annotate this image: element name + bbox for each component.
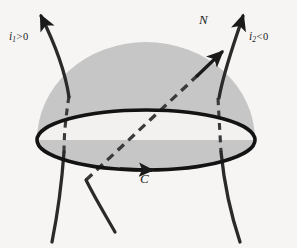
wire-i1-lower: [52, 152, 64, 242]
label-current-i2: i2<0: [249, 31, 268, 44]
label-current-i1: i1>0: [9, 31, 28, 44]
label-i1-value: 0: [22, 31, 28, 42]
normal-vector-tail: [86, 180, 115, 232]
wire-i2-lower: [221, 152, 240, 242]
normal-line-tail: [86, 180, 115, 232]
figure-container: i1>0 i2<0 N C: [0, 0, 297, 248]
label-normal-N: N: [199, 13, 208, 26]
label-curve-C: C: [140, 172, 149, 185]
label-i2-value: 0: [262, 31, 268, 42]
